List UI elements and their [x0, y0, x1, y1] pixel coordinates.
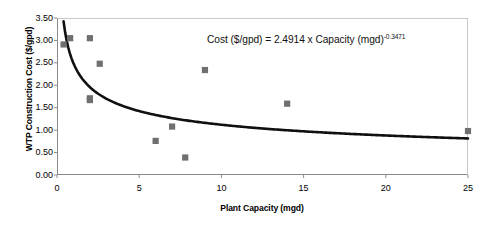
data-point-marker — [465, 128, 471, 134]
trend-line — [64, 21, 468, 138]
data-point-marker — [60, 41, 66, 47]
data-point-marker — [153, 138, 159, 144]
data-point-marker — [202, 67, 208, 73]
data-point-marker — [284, 101, 290, 107]
data-point-marker — [87, 97, 93, 103]
chart-container: WTP Construction Cost ($/gpd) Plant Capa… — [0, 0, 484, 229]
data-point-marker — [97, 61, 103, 67]
data-point-marker — [67, 35, 73, 41]
data-point-marker — [169, 123, 175, 129]
axis-tick-marks — [54, 18, 468, 178]
data-point-marker — [182, 154, 188, 160]
data-point-layer — [60, 35, 471, 161]
chart-canvas — [0, 0, 484, 229]
trend-line-layer — [64, 21, 468, 138]
data-point-marker — [87, 35, 93, 41]
